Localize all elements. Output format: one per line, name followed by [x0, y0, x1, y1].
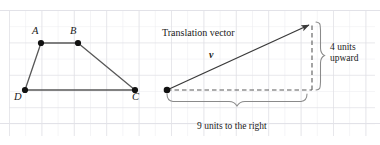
vertex-label-c: C	[132, 91, 139, 103]
vertex-label-b: B	[70, 25, 76, 37]
vertical-component-line2: upward	[330, 53, 359, 64]
horizontal-component-label: 9 units to the right	[197, 121, 267, 132]
vector-symbol-label: v	[209, 49, 213, 60]
vertex-label-a: A	[32, 25, 38, 37]
vertical-component-label: 4 units upward	[330, 42, 359, 63]
translation-vector-caption: Translation vector	[162, 27, 235, 38]
vector-origin-point	[164, 87, 171, 94]
figure-canvas	[0, 0, 380, 145]
vertex-label-d: D	[14, 91, 22, 103]
translation-vector-figure: A B C D Translation vector v 4 units upw…	[0, 0, 380, 145]
vertex-point-b	[75, 40, 81, 46]
vertical-component-line1: 4 units	[330, 42, 359, 53]
vertex-point-a	[38, 40, 44, 46]
vertex-point-d	[22, 87, 28, 93]
